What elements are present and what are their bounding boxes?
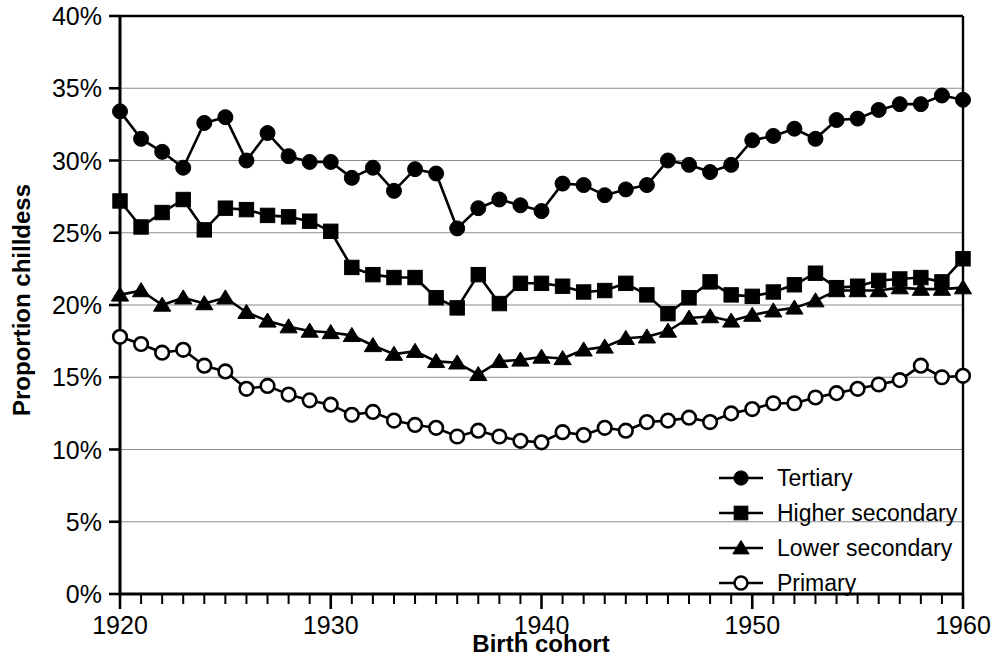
- data-point-marker: [787, 121, 802, 136]
- data-point-marker: [218, 110, 233, 125]
- data-series-layer: [111, 88, 971, 449]
- x-axis-ticks: [120, 594, 963, 609]
- data-point-marker: [555, 279, 569, 293]
- data-point-marker: [219, 365, 233, 379]
- data-point-marker: [513, 276, 527, 290]
- data-point-marker: [155, 205, 169, 219]
- data-point-marker: [366, 405, 380, 419]
- y-axis-tick-label: 0%: [66, 580, 102, 608]
- data-point-marker: [619, 276, 633, 290]
- data-point-marker: [703, 415, 717, 429]
- data-point-marker: [914, 359, 928, 373]
- data-point-marker: [639, 178, 654, 193]
- data-point-marker: [640, 415, 654, 429]
- data-point-marker: [471, 267, 485, 281]
- y-axis-tick-label: 15%: [52, 363, 102, 391]
- x-axis-tick-label: 1930: [303, 611, 359, 639]
- data-point-marker: [176, 192, 190, 206]
- data-point-marker: [703, 165, 718, 180]
- x-axis-tick-label: 1960: [935, 611, 991, 639]
- data-point-marker: [577, 428, 591, 442]
- y-axis-title: Proportion chilldess: [8, 184, 35, 416]
- data-point-marker: [387, 414, 401, 428]
- data-point-marker: [724, 288, 738, 302]
- data-point-marker: [282, 388, 296, 402]
- data-point-marker: [429, 166, 444, 181]
- data-point-marker: [492, 296, 506, 310]
- data-point-marker: [956, 369, 970, 383]
- data-point-marker: [281, 210, 295, 224]
- y-axis-tick-label: 10%: [52, 436, 102, 464]
- line-chart: 0%5%10%15%20%25%30%35%40% 19201930194019…: [0, 0, 1004, 660]
- data-point-marker: [788, 396, 802, 410]
- data-point-marker: [893, 373, 907, 387]
- data-point-marker: [450, 430, 464, 444]
- legend-label: Lower secondary: [777, 535, 953, 561]
- data-point-marker: [134, 337, 148, 351]
- data-point-marker: [471, 201, 486, 216]
- data-point-marker: [302, 214, 316, 228]
- data-point-marker: [450, 221, 465, 236]
- data-point-marker: [197, 115, 212, 130]
- data-point-marker: [492, 192, 507, 207]
- data-point-marker: [366, 267, 380, 281]
- data-point-marker: [240, 382, 254, 396]
- series-lower-secondary: [111, 280, 971, 381]
- data-point-marker: [807, 293, 824, 307]
- legend-label: Primary: [777, 570, 857, 596]
- data-point-marker: [261, 379, 275, 393]
- data-point-marker: [809, 391, 823, 405]
- data-point-marker: [323, 154, 338, 169]
- y-axis-tick-label: 40%: [52, 2, 102, 30]
- y-axis-tick-label: 20%: [52, 291, 102, 319]
- data-point-marker: [239, 153, 254, 168]
- data-point-marker: [239, 202, 253, 216]
- x-axis-title: Birth cohort: [472, 630, 609, 657]
- legend-item-lower-secondary: Lower secondary: [719, 535, 953, 561]
- data-point-marker: [703, 275, 717, 289]
- series-primary: [113, 330, 970, 449]
- data-point-marker: [597, 188, 612, 203]
- data-point-marker: [598, 421, 612, 435]
- data-point-marker: [155, 346, 169, 360]
- y-axis-tick-label: 25%: [52, 219, 102, 247]
- data-point-marker: [934, 88, 949, 103]
- data-point-marker: [808, 131, 823, 146]
- data-point-marker: [659, 323, 676, 337]
- legend-label: Tertiary: [777, 465, 853, 491]
- data-point-marker: [535, 435, 549, 449]
- data-point-marker: [576, 285, 590, 299]
- y-axis-tick-label: 30%: [52, 147, 102, 175]
- chart-container: 0%5%10%15%20%25%30%35%40% 19201930194019…: [0, 0, 1004, 660]
- legend-label: Higher secondary: [777, 500, 958, 526]
- data-point-marker: [113, 104, 128, 119]
- chart-legend: TertiaryHigher secondaryLower secondaryP…: [719, 465, 958, 596]
- data-point-marker: [598, 283, 612, 297]
- data-point-marker: [619, 424, 633, 438]
- data-point-marker: [386, 183, 401, 198]
- data-point-marker: [787, 278, 801, 292]
- data-point-marker: [661, 306, 675, 320]
- data-point-marker: [724, 157, 739, 172]
- y-axis-tick-labels: 0%5%10%15%20%25%30%35%40%: [52, 2, 102, 608]
- data-point-marker: [345, 260, 359, 274]
- y-axis-ticks: [109, 16, 120, 594]
- data-point-marker: [850, 111, 865, 126]
- data-point-marker: [408, 162, 423, 177]
- data-point-marker: [829, 113, 844, 128]
- data-point-marker: [324, 224, 338, 238]
- y-axis-tick-label: 5%: [66, 508, 102, 536]
- data-point-marker: [735, 577, 748, 590]
- data-point-marker: [408, 418, 422, 432]
- data-point-marker: [514, 434, 528, 448]
- data-point-marker: [734, 471, 748, 485]
- data-point-marker: [303, 394, 317, 408]
- data-point-marker: [408, 270, 422, 284]
- data-point-marker: [365, 160, 380, 175]
- y-axis-tick-label: 35%: [52, 74, 102, 102]
- data-point-marker: [493, 430, 507, 444]
- data-point-marker: [872, 378, 886, 392]
- data-point-marker: [281, 149, 296, 164]
- data-point-marker: [618, 182, 633, 197]
- data-point-marker: [406, 343, 423, 357]
